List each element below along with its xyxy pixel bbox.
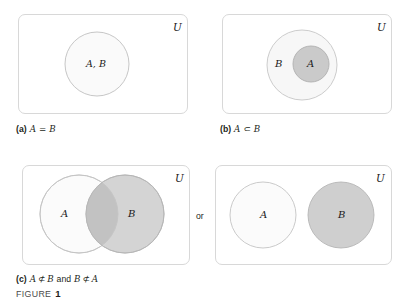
caption-b-right: B	[254, 124, 260, 134]
venn-c-disjoint-svg	[215, 165, 392, 265]
circle-a-label: A	[61, 209, 68, 219]
caption-c: (c)A⊄BandB⊄A	[16, 275, 98, 284]
circle-a-label: A	[307, 59, 314, 69]
caption-a-left: A	[30, 124, 36, 134]
caption-c-set-a: A	[30, 274, 36, 284]
caption-c-set-a2: A	[92, 274, 98, 284]
caption-c-operator-1: ⊄	[38, 274, 45, 284]
or-connector: or	[196, 212, 204, 221]
venn-c-overlap-svg	[22, 165, 190, 265]
universe-label: U	[377, 22, 386, 33]
figure-caption-label: FIGURE1	[16, 289, 61, 299]
caption-c-and: and	[57, 274, 72, 284]
circle-ab-label: A, B	[86, 59, 106, 69]
panel-c-disjoint: U A B	[215, 165, 392, 265]
caption-b-tag: (b)	[220, 124, 231, 134]
panel-c-overlap: U A B	[22, 165, 190, 265]
caption-a-right: B	[49, 124, 55, 134]
panel-a-equal: U A, B	[18, 14, 188, 114]
caption-b: (b)A⊂B	[220, 125, 260, 134]
caption-b-left: A	[234, 124, 240, 134]
caption-a-operator: =	[39, 124, 46, 134]
caption-a-tag: (a)	[16, 124, 27, 134]
figure-venn-diagrams: U A, B (a)A=B U B A (b)A⊂B	[0, 0, 408, 306]
universe-label: U	[173, 22, 182, 33]
circle-b-label: B	[275, 59, 282, 69]
caption-b-operator: ⊂	[243, 124, 250, 134]
caption-a: (a)A=B	[16, 125, 56, 134]
caption-c-tag: (c)	[16, 274, 27, 284]
circle-b-label: B	[128, 209, 135, 219]
figure-label-number: 1	[55, 288, 60, 299]
circle-b-label: B	[338, 210, 345, 220]
caption-c-set-b2: B	[74, 274, 80, 284]
caption-c-operator-2: ⊄	[82, 274, 89, 284]
caption-c-set-b: B	[47, 274, 53, 284]
universe-label: U	[175, 173, 184, 184]
panel-b-subset: U B A	[222, 14, 392, 114]
figure-label-word: FIGURE	[16, 289, 51, 299]
circle-a-label: A	[260, 210, 267, 220]
universe-label: U	[376, 173, 385, 184]
